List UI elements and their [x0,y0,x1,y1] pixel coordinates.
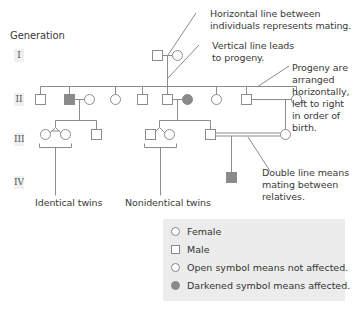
legend-label: Open symbol means not affected. [187,261,348,275]
gen2-male-1 [36,95,46,105]
legend-box: Female Male Open symbol means not affect… [163,219,345,301]
generation-title: Generation [10,30,65,42]
annotation-progeny-1: Vertical line leads [212,40,294,52]
annotation-order-1: Progeny are [292,62,348,74]
gen3-nonidentical-twin-male [146,130,156,140]
generation-label-2: II [14,93,24,106]
annotation-order-5: in order of [292,110,340,122]
gen2-female-affected [183,95,193,105]
gen4-male-affected [227,173,237,183]
generation-label-1: I [14,49,24,62]
open-circle-icon [171,263,180,272]
annotation-mating-2: individuals represents mating. [210,20,351,32]
legend-label: Darkened symbol means affected. [187,279,350,293]
female-circle-icon [171,227,180,236]
annotation-order-4: left to right [292,98,344,110]
gen2-female-2 [111,95,121,105]
annotation-double-2: mating between [262,179,338,191]
gen3-male-1 [92,130,102,140]
gen3-nonidentical-twin-female [165,130,175,140]
order-leader-line [257,66,289,87]
gen1-female [173,51,183,61]
gen3-female-cousin [281,130,291,140]
annotation-progeny-2: to progeny. [212,52,264,64]
gen2-male-affected [65,95,75,105]
generation-label-3: III [14,133,24,146]
identical-twins-bracket [40,144,72,148]
annotation-order-3: horizontally, [292,86,349,98]
double-line-leader-line [248,137,270,171]
gen2-male-3 [163,95,173,105]
mating-leader-line [168,13,196,55]
legend-label: Male [187,243,210,257]
identical-twins-label: Identical twins [35,197,102,209]
progeny-leader-line [168,45,199,78]
gen2-female-spouse [85,95,95,105]
filled-circle-icon [171,281,180,290]
annotation-mating-1: Horizontal line between [210,8,320,20]
gen2-male-2 [138,95,148,105]
gen2-female-3 [212,95,222,105]
legend-label: Female [187,225,221,239]
gen3-identical-twin-1 [41,130,51,140]
gen2-male-4 [242,95,252,105]
gen3-male-2 [206,130,216,140]
pedigree-diagram: Generation I II III IV Horizontal line b… [0,0,355,314]
annotation-double-1: Double line means [262,167,349,179]
nonidentical-twins-label: Nonidentical twins [125,197,211,209]
annotation-order-6: birth. [292,122,317,134]
annotation-order-2: arranged [292,74,334,86]
gen3-identical-twin-2 [61,130,71,140]
generation-label-4: IV [14,176,24,189]
nonidentical-twins-bracket [145,144,177,148]
annotation-double-3: relatives. [262,191,305,203]
gen1-male [153,51,163,61]
male-square-icon [171,245,180,254]
